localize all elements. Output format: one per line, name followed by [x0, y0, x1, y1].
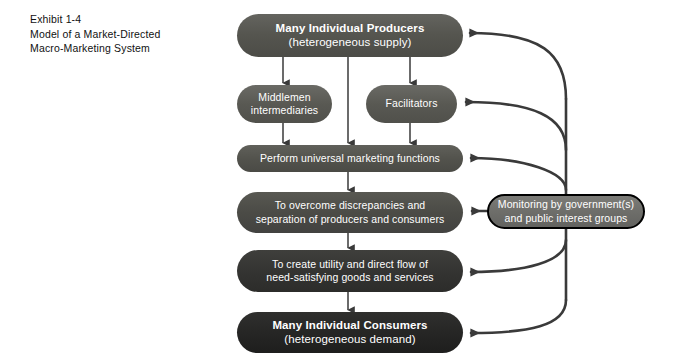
node-middlemen-intermediaries[interactable]: Middlemen intermediaries [237, 85, 332, 123]
node-perform-universal-marketing-functions[interactable]: Perform universal marketing functions [237, 145, 463, 172]
node-overcome-discrepancies[interactable]: To overcome discrepancies and separation… [237, 192, 463, 233]
node-monitoring-government-public-interest[interactable]: Monitoring by government(s) and public i… [487, 194, 645, 229]
edge-monitor-producers [470, 33, 566, 99]
node-producers-line1: Many Individual Producers [276, 22, 425, 36]
node-many-individual-consumers[interactable]: Many Individual Consumers (heterogeneous… [237, 312, 463, 353]
node-monitor-line1: Monitoring by government(s) [498, 198, 634, 212]
node-many-individual-producers[interactable]: Many Individual Producers (heterogeneous… [237, 14, 463, 57]
node-utility-line2: need-satisfying goods and services [266, 271, 433, 285]
node-facilitators[interactable]: Facilitators [366, 85, 457, 123]
node-overcome-line1: To overcome discrepancies and [256, 199, 445, 213]
node-overcome-line2: separation of producers and consumers [256, 213, 445, 227]
edge-monitor-facilitators [466, 102, 566, 150]
node-monitor-line2: and public interest groups [498, 212, 634, 226]
node-consumers-line2: (heterogeneous demand) [272, 333, 427, 347]
edge-monitor-perform [471, 158, 566, 190]
diagram-canvas: Exhibit 1-4 Model of a Market-Directed M… [0, 0, 677, 359]
node-create-utility-direct-flow[interactable]: To create utility and direct flow of nee… [237, 250, 463, 292]
node-middlemen-line1: Middlemen [251, 91, 318, 105]
edge-monitor-consumers [471, 300, 566, 333]
edge-monitor-utility [471, 240, 566, 272]
node-utility-line1: To create utility and direct flow of [266, 258, 433, 272]
node-consumers-line1: Many Individual Consumers [272, 319, 427, 333]
node-perform-line1: Perform universal marketing functions [260, 152, 440, 166]
node-producers-line2: (heterogeneous supply) [276, 36, 425, 50]
node-facilitators-line1: Facilitators [386, 97, 438, 111]
node-middlemen-line2: intermediaries [251, 104, 318, 118]
